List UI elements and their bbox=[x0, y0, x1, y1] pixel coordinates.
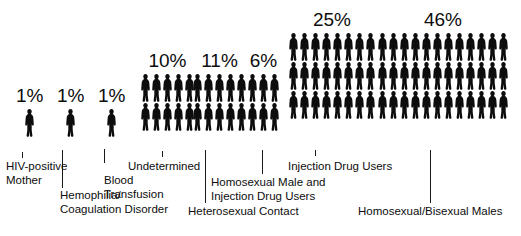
leader-line-blood-transfusion bbox=[104, 149, 105, 163]
value-label-blood-transfusion: 1% bbox=[98, 86, 125, 105]
person-silhouette-icon bbox=[465, 32, 476, 62]
person-silhouette-icon bbox=[192, 102, 203, 132]
person-silhouette-icon bbox=[454, 90, 465, 120]
leader-line-homosexual-bisexual-males bbox=[430, 150, 431, 203]
person-silhouette-icon bbox=[476, 61, 487, 91]
icon-row bbox=[106, 108, 117, 138]
person-silhouette-icon bbox=[173, 102, 184, 132]
person-silhouette-icon bbox=[310, 32, 321, 62]
category-label-injection-drug-users: Injection Drug Users bbox=[288, 160, 392, 174]
person-silhouette-icon bbox=[487, 32, 498, 62]
leader-line-heterosexual-contact bbox=[205, 150, 206, 203]
person-silhouette-icon bbox=[288, 61, 299, 91]
icon-stack-hemophilia-coagulation-disorder bbox=[65, 108, 76, 137]
person-silhouette-icon bbox=[410, 90, 421, 120]
icon-row bbox=[140, 73, 195, 103]
person-silhouette-icon bbox=[288, 32, 299, 62]
person-silhouette-icon bbox=[192, 73, 203, 103]
value-label-hiv-positive-mother: 1% bbox=[16, 86, 43, 105]
person-silhouette-icon bbox=[299, 90, 310, 120]
person-silhouette-icon bbox=[410, 61, 421, 91]
person-silhouette-icon bbox=[365, 32, 376, 62]
icon-stack-homosexual-male-and-injection-drug-users bbox=[247, 73, 280, 131]
value-label-undetermined: 10% bbox=[148, 51, 186, 70]
leader-line-homosexual-male-and-injection-drug-users bbox=[262, 150, 263, 174]
person-silhouette-icon bbox=[421, 32, 432, 62]
person-silhouette-icon bbox=[321, 61, 332, 91]
person-silhouette-icon bbox=[203, 102, 214, 132]
person-silhouette-icon bbox=[465, 61, 476, 91]
icon-row bbox=[192, 102, 247, 132]
icon-row bbox=[377, 90, 509, 120]
pictogram-group-homosexual-bisexual-males: 46% bbox=[377, 10, 509, 119]
person-silhouette-icon bbox=[432, 90, 443, 120]
person-silhouette-icon bbox=[388, 90, 399, 120]
person-silhouette-icon bbox=[247, 102, 258, 132]
category-label-undetermined: Undetermined bbox=[128, 160, 200, 174]
icon-row bbox=[65, 108, 76, 138]
person-silhouette-icon bbox=[162, 73, 173, 103]
person-silhouette-icon bbox=[269, 102, 280, 132]
person-silhouette-icon bbox=[410, 32, 421, 62]
pictogram-group-homosexual-male-and-injection-drug-users: 6% bbox=[247, 51, 280, 131]
icon-row bbox=[377, 61, 509, 91]
value-label-hemophilia-coagulation-disorder: 1% bbox=[57, 86, 84, 105]
person-silhouette-icon bbox=[365, 61, 376, 91]
person-silhouette-icon bbox=[343, 90, 354, 120]
person-silhouette-icon bbox=[476, 90, 487, 120]
person-silhouette-icon bbox=[236, 73, 247, 103]
category-label-homosexual-male-and-injection-drug-users: Homosexual Male and Injection Drug Users bbox=[211, 176, 325, 203]
leader-tick-hiv-positive-mother bbox=[22, 152, 23, 158]
person-silhouette-icon bbox=[421, 61, 432, 91]
person-silhouette-icon bbox=[388, 61, 399, 91]
person-silhouette-icon bbox=[24, 108, 35, 138]
pictogram-group-hiv-positive-mother: 1% bbox=[16, 86, 43, 137]
person-silhouette-icon bbox=[487, 90, 498, 120]
person-silhouette-icon bbox=[388, 32, 399, 62]
icon-stack-injection-drug-users bbox=[288, 32, 376, 119]
person-silhouette-icon bbox=[343, 61, 354, 91]
person-silhouette-icon bbox=[162, 102, 173, 132]
person-silhouette-icon bbox=[299, 32, 310, 62]
person-silhouette-icon bbox=[173, 73, 184, 103]
person-silhouette-icon bbox=[377, 32, 388, 62]
person-silhouette-icon bbox=[65, 108, 76, 138]
person-silhouette-icon bbox=[476, 32, 487, 62]
person-silhouette-icon bbox=[332, 61, 343, 91]
person-silhouette-icon bbox=[354, 90, 365, 120]
pictogram-group-hemophilia-coagulation-disorder: 1% bbox=[57, 86, 84, 137]
person-silhouette-icon bbox=[332, 90, 343, 120]
person-silhouette-icon bbox=[498, 61, 509, 91]
icon-row bbox=[140, 102, 195, 132]
person-silhouette-icon bbox=[399, 61, 410, 91]
person-silhouette-icon bbox=[332, 32, 343, 62]
person-silhouette-icon bbox=[443, 90, 454, 120]
person-silhouette-icon bbox=[354, 32, 365, 62]
value-label-homosexual-bisexual-males: 46% bbox=[424, 10, 462, 29]
category-label-homosexual-bisexual-males: Homosexual/Bisexual Males bbox=[358, 205, 502, 219]
pictogram-chart: 1% 1% 1% 10% 11% 6% 25% 46% bbox=[0, 0, 521, 236]
person-silhouette-icon bbox=[106, 108, 117, 138]
person-silhouette-icon bbox=[454, 32, 465, 62]
icon-row bbox=[192, 73, 247, 103]
icon-row bbox=[377, 32, 509, 62]
person-silhouette-icon bbox=[432, 61, 443, 91]
person-silhouette-icon bbox=[203, 73, 214, 103]
person-silhouette-icon bbox=[247, 73, 258, 103]
person-silhouette-icon bbox=[151, 102, 162, 132]
person-silhouette-icon bbox=[454, 61, 465, 91]
pictogram-group-undetermined: 10% bbox=[140, 51, 195, 131]
person-silhouette-icon bbox=[399, 32, 410, 62]
person-silhouette-icon bbox=[465, 90, 476, 120]
person-silhouette-icon bbox=[140, 73, 151, 103]
leader-tick-injection-drug-users bbox=[315, 150, 316, 156]
person-silhouette-icon bbox=[310, 90, 321, 120]
person-silhouette-icon bbox=[498, 90, 509, 120]
person-silhouette-icon bbox=[258, 73, 269, 103]
person-silhouette-icon bbox=[343, 32, 354, 62]
person-silhouette-icon bbox=[377, 61, 388, 91]
person-silhouette-icon bbox=[299, 61, 310, 91]
pictogram-group-injection-drug-users: 25% bbox=[288, 10, 376, 119]
value-label-heterosexual-contact: 11% bbox=[201, 51, 238, 70]
pictogram-group-heterosexual-contact: 11% bbox=[192, 51, 247, 131]
